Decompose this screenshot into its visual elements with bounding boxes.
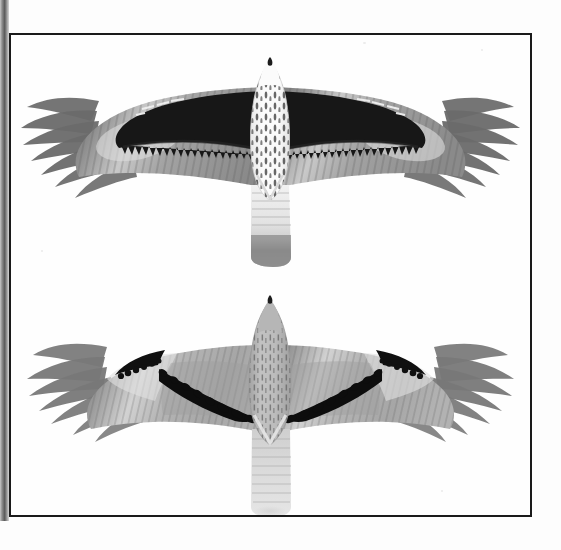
upper-bird-artwork bbox=[11, 35, 530, 295]
upper-bird-figure bbox=[11, 35, 530, 295]
upper-bird-right-wing bbox=[264, 87, 520, 198]
upper-bird-body bbox=[250, 57, 289, 201]
lower-bird-right-wing bbox=[264, 344, 514, 442]
upper-bird-left-wing bbox=[21, 87, 277, 198]
illustration-plate bbox=[0, 0, 561, 550]
plate-frame-border bbox=[9, 33, 532, 517]
plate-canvas bbox=[11, 35, 530, 515]
paper-smudge bbox=[254, 506, 286, 515]
lower-bird-beak bbox=[268, 295, 273, 304]
lower-bird-figure bbox=[11, 263, 530, 515]
lower-bird-left-wing bbox=[27, 344, 277, 442]
scan-gutter-shadow bbox=[0, 0, 9, 521]
upper-bird-beak bbox=[268, 57, 273, 66]
lower-bird-body bbox=[249, 295, 291, 445]
lower-bird-head bbox=[258, 299, 282, 333]
lower-bird-artwork bbox=[11, 263, 530, 515]
